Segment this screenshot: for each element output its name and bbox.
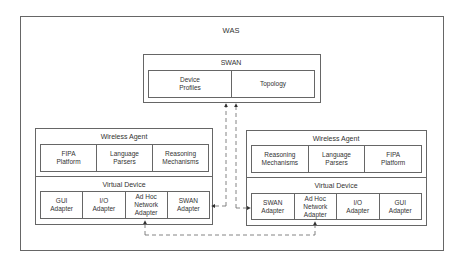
connectors (0, 0, 461, 265)
